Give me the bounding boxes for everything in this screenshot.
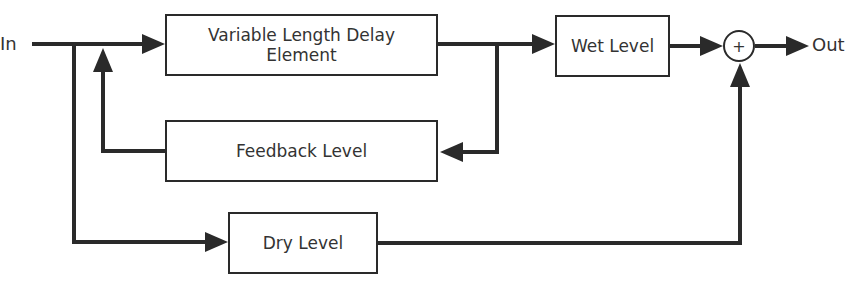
arrow-right-icon — [786, 36, 809, 56]
delay-element-block: Variable Length Delay Element — [165, 14, 438, 76]
feedback-return-line — [103, 70, 165, 151]
dry-level-block: Dry Level — [228, 212, 378, 274]
wet-level-block: Wet Level — [555, 15, 670, 77]
delay-element-label-line1: Variable Length Delay — [208, 25, 395, 45]
arrow-up-icon — [730, 63, 750, 87]
input-label: In — [0, 33, 17, 54]
wet-level-label: Wet Level — [571, 36, 654, 56]
dry-level-label: Dry Level — [263, 233, 343, 253]
feedback-tap-line — [462, 44, 497, 152]
arrow-right-icon — [205, 232, 228, 252]
summing-junction: + — [723, 30, 755, 62]
output-label: Out — [812, 34, 845, 55]
plus-icon: + — [732, 37, 745, 56]
arrow-left-icon — [440, 142, 463, 162]
arrow-right-icon — [532, 34, 555, 54]
arrow-right-icon — [142, 34, 165, 54]
arrow-up-icon — [93, 48, 113, 72]
delay-element-label-line2: Element — [266, 45, 336, 65]
feedback-level-label: Feedback Level — [236, 141, 367, 161]
feedback-level-block: Feedback Level — [165, 120, 438, 182]
arrow-right-icon — [700, 36, 723, 56]
